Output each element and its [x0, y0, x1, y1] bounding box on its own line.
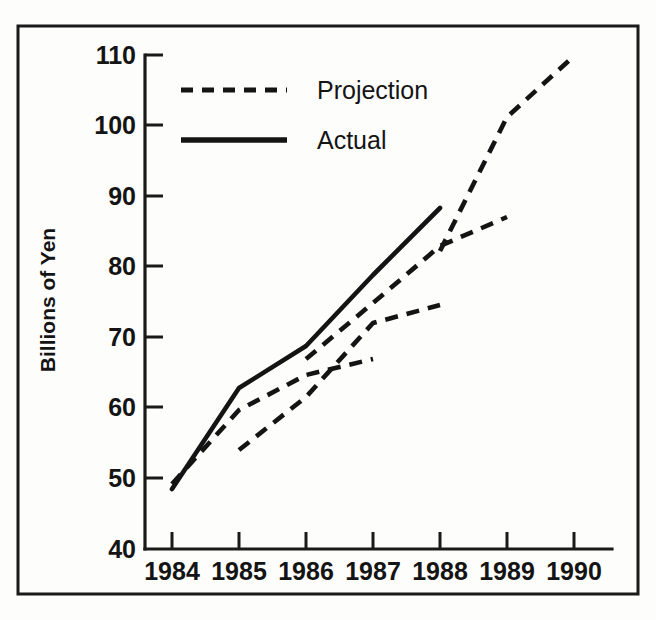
line-chart-canvas: 110 100 90 80 70 60 50 40 1984 1985 1986…: [0, 0, 656, 620]
y-axis-title: Billions of Yen: [36, 228, 59, 372]
legend-label-actual: Actual: [317, 126, 386, 154]
x-tick-label: 1988: [412, 557, 468, 585]
y-tick-label: 100: [94, 111, 136, 139]
y-tick-label: 90: [108, 182, 136, 210]
chart-legend: Projection Actual: [181, 76, 428, 154]
x-axis-ticks: [172, 532, 574, 549]
series-line-actual: [172, 208, 440, 489]
x-tick-label: 1990: [546, 557, 602, 585]
series-line-projection-1984: [172, 359, 373, 484]
series-line-projection-1985: [239, 305, 440, 450]
y-axis-ticks: [145, 55, 163, 478]
y-tick-label: 50: [108, 464, 136, 492]
legend-label-projection: Projection: [317, 76, 428, 104]
x-axis-tick-labels: 1984 1985 1986 1987 1988 1989 1990: [144, 557, 602, 585]
x-tick-label: 1989: [479, 557, 535, 585]
y-tick-label: 60: [108, 393, 136, 421]
y-tick-label: 110: [96, 41, 136, 69]
x-tick-label: 1985: [211, 557, 267, 585]
y-axis-tick-labels: 110 100 90 80 70 60 50 40: [94, 41, 136, 563]
x-tick-label: 1987: [345, 557, 401, 585]
x-tick-label: 1986: [278, 557, 334, 585]
y-tick-label: 80: [108, 252, 136, 280]
series-line-projection-1988: [440, 56, 574, 251]
x-tick-label: 1984: [144, 557, 200, 585]
y-tick-label: 70: [108, 323, 136, 351]
chart-figure: 110 100 90 80 70 60 50 40 1984 1985 1986…: [0, 0, 656, 620]
y-tick-label: 40: [108, 535, 136, 563]
